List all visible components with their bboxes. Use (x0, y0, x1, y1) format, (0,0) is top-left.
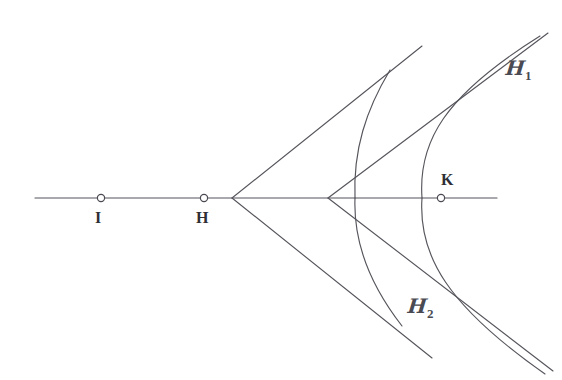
figure-canvas (0, 0, 562, 380)
curve-label-h2-subscript: 2 (427, 307, 434, 320)
curve-label-h1-letter: H (505, 58, 526, 78)
curve-label-h2-letter: H (407, 296, 428, 316)
point-marker-I[interactable] (97, 194, 104, 201)
hyperbola-branch-h2-lower (355, 198, 402, 326)
curve-label-h1-subscript: 1 (525, 69, 532, 82)
point-label-H: H (196, 210, 208, 226)
asymptote-lower-inner (232, 198, 432, 358)
point-label-I: I (95, 210, 101, 226)
curve-label-h2: H2 (408, 296, 433, 320)
point-marker-K[interactable] (437, 194, 444, 201)
point-marker-H[interactable] (200, 194, 207, 201)
point-label-K: K (441, 172, 453, 188)
asymptote-lower-outer (328, 198, 553, 371)
curve-label-h1: H1 (506, 58, 531, 82)
asymptote-upper-inner (232, 46, 422, 198)
hyperbola-figure: I H K H1 H2 (0, 0, 562, 380)
hyperbola-branch-h2-upper (355, 70, 390, 198)
hyperbola-branch-h1-lower (422, 198, 545, 374)
